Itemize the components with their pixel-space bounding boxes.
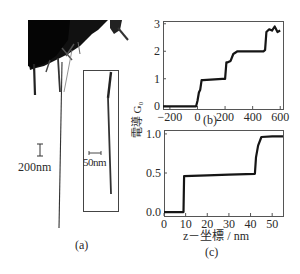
c-x-axis-label: z－坐標 / nm <box>183 230 249 242</box>
svg-text:0.0: 0.0 <box>146 205 161 219</box>
svg-text:0.5: 0.5 <box>146 166 161 180</box>
panel-c-label: (c) <box>205 246 218 258</box>
svg-text:1.0: 1.0 <box>146 127 161 141</box>
svg-text:50: 50 <box>266 217 278 231</box>
chart-c: 010203040500.00.51.0 <box>0 0 300 274</box>
svg-text:0: 0 <box>161 217 167 231</box>
chart-c-plot: 010203040500.00.51.0 <box>0 0 300 274</box>
